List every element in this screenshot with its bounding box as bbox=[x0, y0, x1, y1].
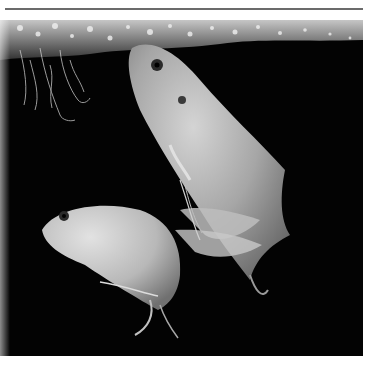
bubble-nest bbox=[0, 20, 363, 60]
top-rule-divider bbox=[5, 8, 363, 10]
lower-fish bbox=[42, 206, 180, 338]
fish-photograph: Two pale gourami fish swimming beneath a… bbox=[0, 20, 363, 356]
plant-roots bbox=[20, 48, 90, 121]
left-edge-fade bbox=[0, 20, 10, 356]
